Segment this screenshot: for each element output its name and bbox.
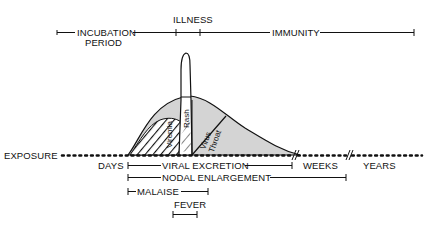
fever-label: FEVER (174, 199, 206, 210)
nodal-enlargement-label: NODAL ENLARGEMENT (162, 172, 271, 183)
immunity-label: IMMUNITY (272, 27, 320, 38)
malaise-label: MALAISE (137, 186, 179, 197)
days-label: DAYS (98, 160, 124, 171)
exposure-label: EXPOSURE (4, 150, 58, 161)
rubella-timeline-diagram: INCUBATION PERIOD ILLNESS IMMUNITY Virem… (0, 0, 426, 228)
years-label: YEARS (363, 160, 396, 171)
rash-label: Rash (182, 109, 191, 128)
weeks-label: WEEKS (303, 160, 338, 171)
incubation-sublabel: PERIOD (85, 37, 122, 48)
viremia-label: Viremia (165, 120, 174, 148)
viral-excretion-label: VIRAL EXCRETION (162, 160, 249, 171)
disease-curve: Viremia Rash Virus Throat (128, 53, 300, 155)
top-phase-timeline: INCUBATION PERIOD ILLNESS IMMUNITY (57, 14, 414, 48)
illness-label: ILLNESS (173, 14, 213, 25)
